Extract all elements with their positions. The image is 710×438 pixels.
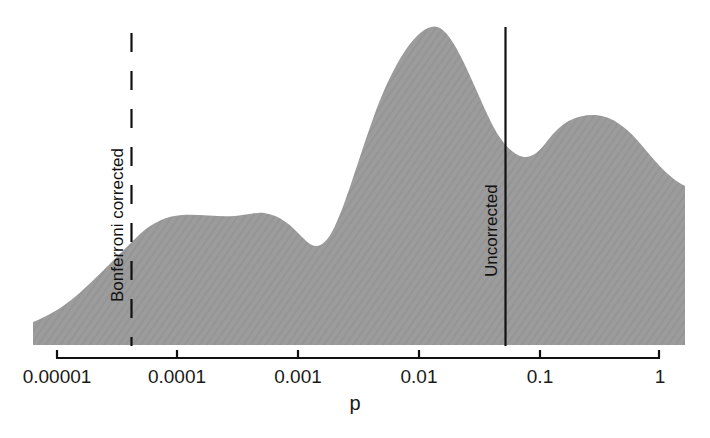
xtick-label-2: 0.001 xyxy=(274,366,322,388)
uncorrected-label: Uncorrected xyxy=(482,184,502,277)
x-axis xyxy=(56,350,660,358)
xtick-label-0: 0.00001 xyxy=(23,366,92,388)
figure-container: 0.00001 0.0001 0.001 0.01 0.1 1 p Bonfer… xyxy=(0,0,710,438)
xtick-label-1: 0.0001 xyxy=(148,366,206,388)
xtick-label-5: 1 xyxy=(655,366,666,388)
xtick-label-3: 0.01 xyxy=(401,366,438,388)
xtick-label-4: 0.1 xyxy=(527,366,553,388)
bonferroni-corrected-label: Bonferroni corrected xyxy=(108,148,128,302)
x-axis-title: p xyxy=(349,392,360,415)
density-plot xyxy=(0,0,710,438)
